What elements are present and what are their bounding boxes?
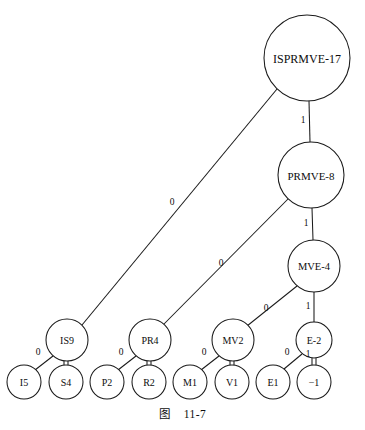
tree-node-pr4: PR4 — [129, 319, 171, 361]
node-label-n2: PRMVE-8 — [287, 170, 335, 182]
tree-node-l_v1: V1 — [215, 365, 249, 399]
node-label-l_neg1: −1 — [309, 377, 320, 388]
tree-node-l_e1: E1 — [256, 365, 290, 399]
node-label-root: ISPRMVE-17 — [273, 52, 341, 66]
tree-diagram-canvas: ISPRMVE-17PRMVE-8MVE-4IS9PR4MV2E-2I5S4P2… — [0, 0, 365, 430]
tree-node-l_s4: S4 — [49, 365, 83, 399]
tree-edge-e_root_is9 — [82, 89, 277, 325]
tree-node-l_p2: P2 — [90, 365, 124, 399]
tree-node-e2: E-2 — [296, 322, 332, 358]
node-label-mv2: MV2 — [222, 335, 243, 346]
edge-label-e_n3_mv2: 0 — [264, 303, 269, 313]
tree-edge-e_root_n2 — [309, 101, 310, 142]
edge-label-e_root_is9: 0 — [170, 197, 175, 207]
edge-label-e_e2_neg1: 1 — [306, 349, 311, 359]
figure-caption: 图 11-7 — [0, 405, 365, 421]
node-label-l_r2: R2 — [143, 377, 155, 388]
tree-node-mv2: MV2 — [212, 319, 254, 361]
node-label-e2: E-2 — [307, 335, 321, 346]
edge-label-e_is9_i5: 0 — [36, 347, 41, 357]
node-label-l_i5: I5 — [20, 377, 28, 388]
tree-edge-e_n3_mv2 — [247, 286, 297, 326]
edge-label-e_n2_n3: 1 — [304, 218, 309, 228]
tree-node-is9: IS9 — [46, 319, 88, 361]
edge-label-e_e2_e1: 0 — [285, 347, 290, 357]
tree-node-root: ISPRMVE-17 — [264, 15, 350, 101]
tree-node-l_r2: R2 — [132, 365, 166, 399]
node-label-is9: IS9 — [60, 335, 74, 346]
nodes-layer: ISPRMVE-17PRMVE-8MVE-4IS9PR4MV2E-2I5S4P2… — [7, 15, 350, 399]
tree-node-n3: MVE-4 — [288, 240, 340, 292]
tree-edge-e_mv2_m1 — [201, 356, 219, 370]
edge-label-e_n3_e2: 1 — [306, 301, 311, 311]
node-label-l_e1: E1 — [267, 377, 278, 388]
edge-label-e_mv2_m1: 0 — [202, 347, 207, 357]
node-label-n3: MVE-4 — [298, 261, 331, 272]
node-label-pr4: PR4 — [141, 335, 158, 346]
edge-label-e_n2_pr4: 0 — [219, 258, 224, 268]
node-label-l_s4: S4 — [61, 377, 72, 388]
tree-node-l_neg1: −1 — [297, 365, 331, 399]
edge-label-e_root_n2: 1 — [301, 115, 306, 125]
tree-edge-e_pr4_p2 — [118, 356, 136, 370]
decision-tree-figure: ISPRMVE-17PRMVE-8MVE-4IS9PR4MV2E-2I5S4P2… — [0, 0, 365, 430]
tree-node-l_i5: I5 — [7, 365, 41, 399]
edge-label-e_pr4_p2: 0 — [119, 347, 124, 357]
tree-node-n2: PRMVE-8 — [278, 142, 344, 208]
node-label-l_p2: P2 — [102, 377, 113, 388]
tree-edge-e_is9_i5 — [35, 356, 53, 370]
tree-node-l_m1: M1 — [173, 365, 207, 399]
tree-edge-e_n2_pr4 — [164, 199, 288, 324]
tree-edge-e_n2_n3 — [312, 208, 313, 240]
node-label-l_m1: M1 — [183, 377, 197, 388]
node-label-l_v1: V1 — [226, 377, 238, 388]
